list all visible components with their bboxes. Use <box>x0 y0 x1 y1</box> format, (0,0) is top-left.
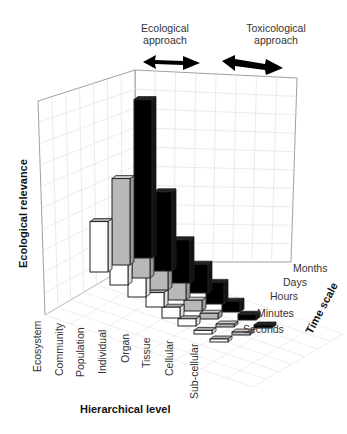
z-tick-hours: Hours <box>270 290 298 302</box>
z-tick-seconds: Seconds <box>243 323 284 335</box>
toxicological-approach-label: Toxicological approach <box>236 22 316 46</box>
x-axis-label: Hierarchical level <box>80 403 171 415</box>
toxicological-approach-arrow-icon <box>222 55 283 75</box>
x-tick-community: Community <box>53 323 65 376</box>
bar <box>112 176 134 265</box>
x-tick-subcellular: Sub-cellular <box>188 344 200 399</box>
bar <box>90 219 112 272</box>
x-tick-cellular: Cellular <box>163 340 175 376</box>
bar <box>216 321 238 327</box>
ecological-approach-arrow-icon <box>143 55 200 70</box>
ecological-approach-label: Ecological approach <box>135 22 195 46</box>
y-axis-label: Ecological relevance <box>17 159 29 268</box>
x-tick-population: Population <box>74 327 86 377</box>
x-tick-ecosystem: Ecosystem <box>31 321 43 372</box>
ecological-label-line1: Ecological <box>135 22 195 34</box>
bar <box>134 97 156 258</box>
z-tick-minutes: Minutes <box>257 307 294 319</box>
bar <box>200 310 222 319</box>
bar <box>210 336 232 342</box>
x-tick-tissue: Tissue <box>140 337 152 368</box>
ecological-label-line2: approach <box>135 34 195 46</box>
bar <box>154 189 176 271</box>
bar <box>194 327 216 334</box>
z-tick-months: Months <box>293 262 327 274</box>
z-tick-days: Days <box>283 276 307 288</box>
x-tick-organ: Organ <box>119 334 131 363</box>
toxicological-label-line1: Toxicological <box>236 22 316 34</box>
x-tick-individual: Individual <box>96 330 108 374</box>
toxicological-label-line2: approach <box>236 34 316 46</box>
